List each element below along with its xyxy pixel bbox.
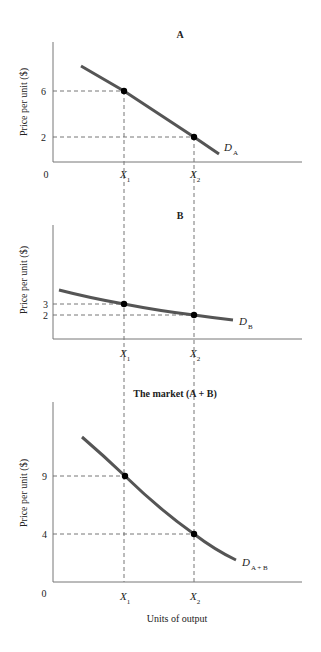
- panel-b-point-x1: [121, 301, 127, 307]
- panel-market-x1-label: X1: [119, 590, 131, 606]
- panel-b-x2-label: X2: [189, 347, 201, 363]
- panel-b-demand-curve: [59, 290, 233, 320]
- panel-b: B Price per unit ($) 3 2 DB X1 X2: [18, 210, 302, 363]
- panel-market-title: The market (A + B): [133, 388, 216, 400]
- panel-market-origin: 0: [42, 588, 47, 599]
- panel-a-point-x1: [121, 88, 127, 94]
- panel-market-curve-label: DA + B: [241, 556, 268, 572]
- panel-market-tick-9: 9: [42, 471, 47, 482]
- panel-a-tick-2: 2: [41, 132, 46, 143]
- panel-market-x2-label: X2: [189, 590, 201, 606]
- panel-b-title: B: [177, 210, 184, 221]
- panel-market-point-x2: [191, 531, 197, 537]
- panel-market-x-axis-label: Units of output: [147, 613, 208, 624]
- panel-a-demand-curve: [81, 66, 219, 154]
- panel-a-origin: 0: [44, 169, 49, 180]
- panel-a: A Price per unit ($) 6 2 0 DA X1 X2: [18, 29, 302, 184]
- panel-b-curve-label: DB: [238, 315, 253, 331]
- panel-b-x1-label: X1: [119, 347, 131, 363]
- panel-market-y-axis-label: Price per unit ($): [18, 459, 30, 527]
- panel-a-x2-label: X2: [189, 168, 201, 184]
- panel-a-x1-label: X1: [119, 168, 131, 184]
- panel-a-point-x2: [191, 134, 197, 140]
- panel-market: The market (A + B) Price per unit ($) 9 …: [18, 388, 302, 624]
- panel-b-y-axis-label: Price per unit ($): [18, 246, 30, 314]
- panel-b-point-x2: [191, 312, 197, 318]
- panel-market-point-x1: [122, 473, 128, 479]
- demand-aggregation-figure: A Price per unit ($) 6 2 0 DA X1 X2 B Pr…: [0, 0, 321, 652]
- panel-a-title: A: [176, 29, 184, 40]
- panel-b-tick-2: 2: [43, 310, 48, 321]
- panel-b-tick-3: 3: [43, 299, 48, 310]
- panel-market-demand-curve: [82, 437, 236, 560]
- panel-a-tick-6: 6: [41, 86, 46, 97]
- panel-a-y-axis-label: Price per unit ($): [18, 68, 30, 136]
- panel-market-tick-4: 4: [42, 529, 47, 540]
- panel-a-curve-label: DA: [223, 141, 238, 157]
